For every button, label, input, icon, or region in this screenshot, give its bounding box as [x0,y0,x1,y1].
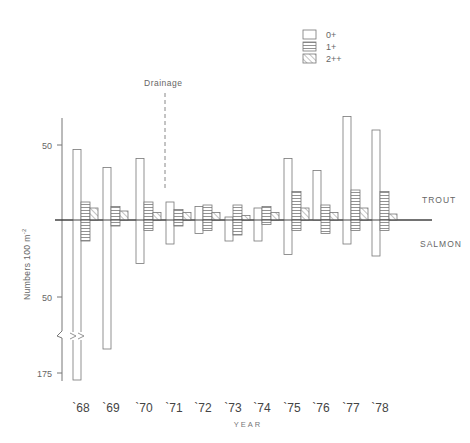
legend-swatch-0plus [303,30,316,39]
bar-1plus [351,190,360,231]
bar-0plus [103,168,111,350]
bar-1plus [144,202,153,231]
bar-group-77 [343,117,368,245]
bar-2plus [120,211,128,220]
bar-group-75 [284,159,309,255]
x-tick-71: `71 [165,401,183,415]
bar-1plus [203,205,212,231]
y-axis: 50 50 175 Numbers 100 m-2 [21,118,62,381]
bar-group-71 [166,202,191,244]
legend-label-2plus: 2++ [326,54,342,64]
bar-1plus [174,210,183,227]
x-tick-69: `69 [102,401,120,415]
break-gap [72,332,82,340]
legend: 0+ 1+ 2++ [303,30,342,64]
bar-group-74 [254,207,279,242]
trout-label: TROUT [422,195,456,205]
bar-1plus [81,202,90,241]
bar-2plus [389,214,397,220]
x-axis-labels: `68`69`70`71`72`73`74`75`76`77`78 [72,401,389,415]
bar-1plus [380,192,389,231]
bar-0plus [343,117,351,245]
bar-2plus [212,213,220,221]
trout-salmon-chart: 0+ 1+ 2++ Drainage 50 50 175 Numbers 100… [0,0,470,443]
y-axis-label: Numbers 100 m-2 [21,228,32,300]
bar-0plus [136,159,144,264]
x-tick-76: `76 [312,401,330,415]
x-tick-75: `75 [283,401,301,415]
x-tick-73: `73 [224,401,242,415]
bar-0plus [372,130,380,256]
bar-0plus [313,171,321,221]
bar-groups [55,117,432,381]
legend-swatch-1plus [303,42,316,51]
bar-2plus [301,208,309,220]
bar-1plus [111,207,120,227]
bar-0plus [225,217,233,241]
bar-2plus [271,213,279,221]
legend-label-1plus: 1+ [326,42,336,52]
bar-group-76 [313,171,338,234]
drainage-annotation: Drainage [144,78,183,88]
x-axis-title: YEAR [234,420,262,429]
bar-group-68 [70,150,98,381]
bar-2plus [183,213,191,221]
bar-2plus [242,216,250,221]
bar-1plus [321,205,330,234]
bar-2plus [330,213,338,221]
bar-0plus [166,202,174,244]
salmon-label: SALMON [420,239,462,249]
bar-1plus [292,192,301,231]
y-tick-upper-50: 50 [42,141,52,151]
bar-0plus [254,208,262,241]
bar-group-69 [103,168,128,350]
bar-group-78 [372,130,397,256]
legend-swatch-2plus [303,54,316,63]
x-tick-77: `77 [342,401,360,415]
x-tick-74: `74 [253,401,271,415]
bar-0plus [73,150,81,381]
bar-2plus [360,208,368,220]
y-tick-175: 175 [37,369,52,379]
bar-2plus [90,208,98,220]
bar-1plus [262,207,271,225]
x-tick-70: `70 [135,401,153,415]
x-tick-72: `72 [194,401,212,415]
y-tick-lower-50: 50 [42,293,52,303]
x-tick-78: `78 [371,401,389,415]
bar-group-73 [225,205,250,241]
legend-label-0plus: 0+ [326,30,336,40]
x-tick-68: `68 [72,401,90,415]
bar-2plus [153,213,161,221]
bar-group-70 [136,159,161,264]
bar-0plus [284,159,292,255]
bar-group-72 [195,205,220,234]
